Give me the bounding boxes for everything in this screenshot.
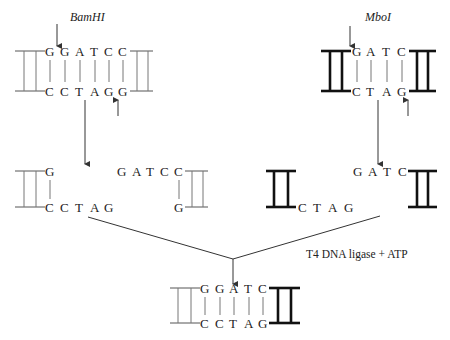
converge-line-left: [88, 217, 233, 259]
mboi-bot-1: C: [352, 84, 361, 99]
svg-text:A: A: [244, 316, 254, 331]
mboi-bot-2: T: [366, 84, 374, 99]
svg-text:T: T: [75, 200, 83, 215]
bamhi-top-2: G: [60, 44, 69, 59]
bamhi-bot-2: C: [60, 84, 69, 99]
svg-text:G: G: [200, 281, 209, 296]
svg-text:A: A: [328, 200, 338, 215]
ligation-label: T4 DNA ligase + ATP: [306, 248, 408, 261]
svg-text:C: C: [200, 316, 209, 331]
mboi-bot-4: G: [397, 84, 406, 99]
svg-text:G: G: [117, 164, 126, 179]
svg-text:G: G: [104, 200, 113, 215]
mboi-top-1: G: [352, 44, 361, 59]
svg-text:T: T: [383, 164, 391, 179]
mboi-fragment-right: G A T C: [353, 164, 437, 207]
bamhi-bot-1: C: [45, 84, 54, 99]
svg-text:C: C: [160, 164, 169, 179]
bamhi-top-4: T: [90, 44, 98, 59]
svg-text:C: C: [174, 164, 183, 179]
svg-text:A: A: [132, 164, 142, 179]
enzyme-label-bamhi: BamHI: [70, 10, 106, 24]
bamhi-top-5: C: [104, 44, 113, 59]
svg-text:C: C: [398, 164, 407, 179]
svg-text:C: C: [258, 281, 267, 296]
svg-text:A: A: [368, 164, 378, 179]
mboi-top-4: C: [397, 44, 406, 59]
svg-text:C: C: [298, 200, 307, 215]
svg-text:T: T: [229, 316, 237, 331]
mboi-top-3: T: [382, 44, 390, 59]
svg-text:G: G: [215, 281, 224, 296]
frag-la-top: G: [45, 164, 54, 179]
mboi-bot-3: A: [382, 84, 392, 99]
bamhi-bot-6: G: [118, 84, 127, 99]
restriction-ligation-diagram: BamHI MboI G G A T C C C C T A G G: [0, 0, 450, 340]
svg-text:G: G: [344, 200, 353, 215]
bamhi-top-3: A: [75, 44, 85, 59]
bamhi-fragment-right: G A T C C G: [117, 164, 208, 215]
ligated-product-dna: G G A T C C C T A G: [170, 281, 300, 331]
bamhi-top-1: G: [45, 44, 54, 59]
bamhi-bot-3: T: [75, 84, 83, 99]
enzyme-label-mboi: MboI: [364, 10, 392, 24]
svg-text:C: C: [60, 200, 69, 215]
svg-text:G: G: [353, 164, 362, 179]
svg-text:G: G: [258, 316, 267, 331]
svg-text:T: T: [313, 200, 321, 215]
svg-text:T: T: [244, 281, 252, 296]
svg-text:C: C: [45, 200, 54, 215]
bamhi-bot-4: A: [90, 84, 100, 99]
bamhi-fragment-left: G C C T A G: [15, 164, 113, 215]
svg-text:C: C: [215, 316, 224, 331]
mboi-fragment-left: C T A G: [266, 171, 353, 215]
svg-text:G: G: [174, 200, 183, 215]
bamhi-top-6: C: [118, 44, 127, 59]
bamhi-site-dna: G G A T C C C C T A G G: [15, 24, 153, 116]
svg-text:A: A: [229, 281, 239, 296]
mboi-top-2: A: [366, 44, 376, 59]
bamhi-bot-5: G: [104, 84, 113, 99]
svg-text:T: T: [146, 164, 154, 179]
svg-text:A: A: [90, 200, 100, 215]
